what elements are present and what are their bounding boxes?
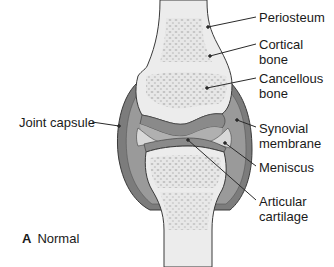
- label-meniscus: Meniscus: [259, 160, 314, 175]
- caption-letter: A: [22, 231, 31, 246]
- label-articular-cartilage-line1: Articular: [259, 194, 307, 209]
- label-joint-capsule: Joint capsule: [19, 115, 95, 130]
- leader-periosteum: [208, 17, 256, 27]
- label-cancellous-bone-line2: bone: [259, 86, 288, 101]
- label-cortical-bone-line1: Cortical: [259, 37, 303, 52]
- label-synovial-membrane-line1: Synovial: [259, 121, 308, 136]
- label-cancellous-bone-line1: Cancellous: [259, 71, 323, 86]
- upper-bone: [136, 0, 232, 124]
- leader-joint-capsule: [92, 122, 119, 126]
- label-periosteum: Periosteum: [259, 10, 325, 25]
- joint-diagram: Periosteum Cortical bone Cancellous bone…: [0, 0, 334, 267]
- figure-caption: ANormal: [22, 231, 79, 246]
- label-cortical-bone-line2: bone: [259, 52, 288, 67]
- label-articular-cartilage-line2: cartilage: [259, 209, 308, 224]
- label-synovial-membrane-line2: membrane: [259, 136, 321, 151]
- caption-text: Normal: [37, 231, 79, 246]
